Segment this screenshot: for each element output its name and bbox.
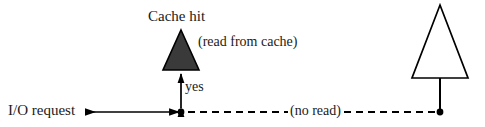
cache-hit-label: Cache hit <box>148 9 205 24</box>
io-request-label: I/O request <box>8 103 75 118</box>
cache-hit-triangle <box>163 30 199 70</box>
no-read-label: (no read) <box>288 104 343 118</box>
read-from-cache-label: (read from cache) <box>198 35 297 49</box>
junction-node-right <box>437 109 444 116</box>
yes-label: yes <box>185 80 204 94</box>
no-read-triangle <box>412 5 468 78</box>
junction-node-left <box>178 109 185 116</box>
cache-hit-diagram: Cache hit (read from cache) yes I/O requ… <box>0 0 485 127</box>
